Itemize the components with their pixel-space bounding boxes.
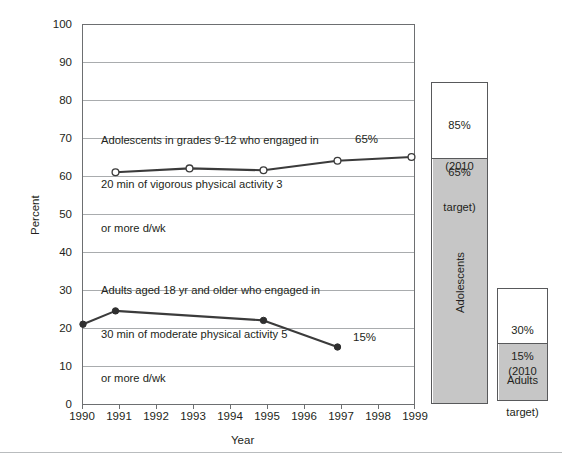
figure-bottom-rule xyxy=(0,452,562,453)
y-tick-90: 90 xyxy=(46,56,72,69)
y-tick-80: 80 xyxy=(46,94,72,107)
bar-adults-target-block: 30% (2010 target) xyxy=(497,297,548,447)
y-tick-30: 30 xyxy=(46,284,72,297)
x-tick-1997: 1997 xyxy=(324,410,358,423)
bar-adults-target-value: 30% xyxy=(497,324,548,338)
y-tick-10: 10 xyxy=(46,360,72,373)
annotation-adults-line-1: Adults aged 18 yr and older who engaged … xyxy=(101,283,320,298)
x-tick-1990: 1990 xyxy=(65,410,99,423)
figure: 100 90 80 70 60 50 40 30 20 10 0 Percent… xyxy=(0,0,562,463)
y-tick-50: 50 xyxy=(46,208,72,221)
y-tick-20: 20 xyxy=(46,322,72,335)
y-tick-60: 60 xyxy=(46,170,72,183)
bar-adults-group-label: Adults xyxy=(497,374,548,388)
bar-adolescents-target-word: target) xyxy=(431,201,488,215)
y-tick-70: 70 xyxy=(46,132,72,145)
data-label-adolescents-65: 65% xyxy=(355,133,378,145)
annotation-adolescents: Adolescents in grades 9-12 who engaged i… xyxy=(101,104,319,265)
y-tick-40: 40 xyxy=(46,246,72,259)
annotation-adolescents-line-3: or more d/wk xyxy=(101,221,319,236)
annotation-adults-line-2: 30 min of moderate physical activity 5 xyxy=(101,327,320,342)
y-tick-100: 100 xyxy=(46,18,72,31)
annotation-adults-line-3: or more d/wk xyxy=(101,371,320,386)
bar-adolescents-current-value: 65% xyxy=(431,166,488,180)
data-label-adults-15: 15% xyxy=(353,331,376,343)
bar-adolescents-target-value: 85% xyxy=(431,119,488,133)
annotation-adolescents-line-1: Adolescents in grades 9-12 who engaged i… xyxy=(101,133,319,148)
bar-adults-target-word: target) xyxy=(497,406,548,420)
x-tick-1998: 1998 xyxy=(361,410,395,423)
bar-adults-current-value: 15% xyxy=(497,350,548,364)
y-axis-title: Percent xyxy=(29,195,41,235)
annotation-adolescents-line-2: 20 min of vigorous physical activity 3 xyxy=(101,177,319,192)
x-axis-title: Year xyxy=(231,434,254,447)
annotation-adults: Adults aged 18 yr and older who engaged … xyxy=(101,254,320,415)
bar-adolescents-group-label: Adolescents xyxy=(454,252,466,313)
x-tick-1999: 1999 xyxy=(398,410,432,423)
